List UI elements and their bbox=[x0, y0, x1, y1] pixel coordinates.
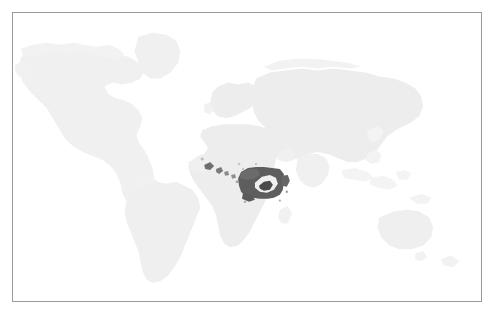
world-map-figure bbox=[0, 0, 494, 314]
world-map-svg[interactable] bbox=[13, 13, 481, 301]
map-frame-border bbox=[12, 12, 482, 302]
